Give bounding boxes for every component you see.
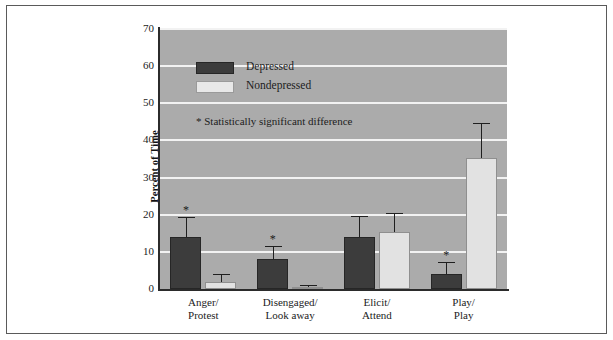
x-tick-line1-group-1: Anger/: [160, 296, 247, 309]
bar-depressed-group-1: [170, 237, 201, 289]
error-bar-nondepressed-group-4: [481, 123, 482, 159]
error-bar-nondepressed-group-1: [221, 274, 222, 281]
error-bar-nondepressed-group-3: [394, 213, 395, 232]
legend-label-depressed: Depressed: [246, 60, 294, 72]
error-cap-depressed-group-1: [178, 217, 195, 218]
bar-nondepressed-group-2: [292, 287, 323, 289]
x-tick-line2-group-2: Look away: [247, 309, 334, 322]
plot-area: Depressed Nondepressed * Statistically s…: [160, 29, 507, 289]
y-tick-60: 60: [126, 60, 154, 71]
legend-label-nondepressed: Nondepressed: [246, 79, 311, 91]
significance-star-group-2: *: [270, 235, 276, 243]
error-bar-depressed-group-4: [446, 262, 447, 274]
error-cap-depressed-group-2: [265, 246, 282, 247]
x-tick-line1-group-2: Disengaged/: [247, 296, 334, 309]
x-tick-line1-group-3: Elicit/: [334, 296, 421, 309]
error-cap-depressed-group-4: [438, 262, 455, 263]
x-tick-group-4: Play/Play: [420, 296, 507, 322]
legend-swatch-depressed: [196, 62, 234, 74]
error-bar-depressed-group-2: [273, 246, 274, 260]
bar-nondepressed-group-3: [379, 232, 410, 289]
x-tick-line2-group-4: Play: [420, 309, 507, 322]
legend-swatch-nondepressed: [196, 81, 234, 93]
bar-nondepressed-group-4: [466, 158, 497, 289]
x-tick-group-3: Elicit/Attend: [334, 296, 421, 322]
error-cap-nondepressed-group-2: [300, 285, 317, 286]
bar-depressed-group-2: [257, 259, 288, 289]
gridline-40: [160, 139, 507, 141]
y-tick-70: 70: [126, 23, 154, 34]
gridline-50: [160, 102, 507, 104]
bar-depressed-group-4: [431, 274, 462, 289]
significance-star-group-4: *: [443, 251, 449, 259]
error-cap-nondepressed-group-3: [386, 213, 403, 214]
x-axis-line: [158, 289, 509, 291]
bar-nondepressed-group-1: [205, 282, 236, 289]
gridline-20: [160, 214, 507, 216]
error-cap-nondepressed-group-1: [213, 274, 230, 275]
error-cap-depressed-group-3: [351, 216, 368, 217]
x-tick-line2-group-1: Protest: [160, 309, 247, 322]
error-bar-depressed-group-3: [359, 216, 360, 237]
gridline-30: [160, 177, 507, 179]
gridline-70: [160, 28, 507, 30]
significance-note: * Statistically significant difference: [196, 115, 353, 127]
bar-depressed-group-3: [344, 237, 375, 289]
gridline-10: [160, 251, 507, 253]
x-tick-group-1: Anger/Protest: [160, 296, 247, 322]
error-cap-nondepressed-group-4: [473, 123, 490, 124]
y-tick-10: 10: [126, 246, 154, 257]
y-tick-0: 0: [126, 283, 154, 294]
significance-star-group-1: *: [183, 206, 189, 214]
figure-container: 010203040506070 Percent of Time Depresse…: [0, 0, 613, 340]
x-tick-line2-group-3: Attend: [334, 309, 421, 322]
error-bar-depressed-group-1: [186, 217, 187, 237]
x-tick-line1-group-4: Play/: [420, 296, 507, 309]
x-tick-group-2: Disengaged/Look away: [247, 296, 334, 322]
